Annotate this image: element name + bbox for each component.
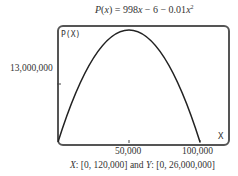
- y-tick-label: 13,000,000: [10, 63, 53, 73]
- window-caption: X: [0, 120,000] and Y: [0, 26,000,000]: [70, 160, 215, 170]
- x-tick-label-2: 100,000: [182, 146, 213, 156]
- x-tick-label-1: 50,000: [115, 146, 141, 156]
- profit-curve: [58, 30, 200, 142]
